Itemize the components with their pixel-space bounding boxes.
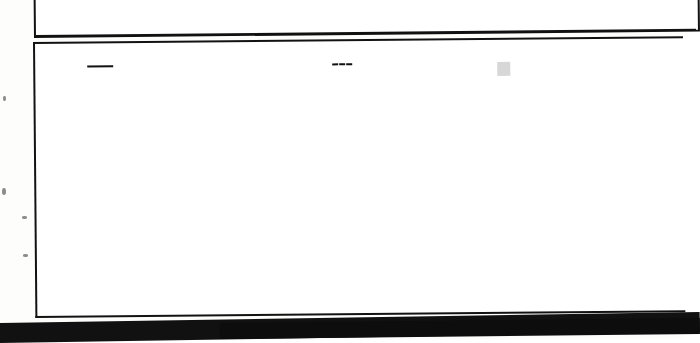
chart-container: [33, 36, 685, 318]
scan-speck: [2, 188, 6, 195]
scan-speck: [23, 254, 28, 257]
scan-speck: [3, 96, 6, 101]
plot-area: [35, 38, 685, 316]
scan-speck: [22, 216, 27, 219]
